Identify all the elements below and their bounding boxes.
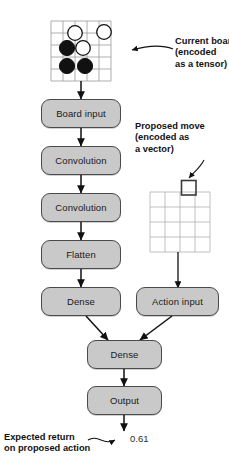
highlighted-move-cell <box>182 181 197 196</box>
stone-black <box>77 58 92 73</box>
node-flatten[interactable]: Flatten <box>41 240 121 269</box>
stone-white <box>97 25 112 40</box>
node-dense-2-label: Dense <box>111 350 139 360</box>
leader-current-board <box>132 46 173 50</box>
expected-return-callout: Expected return on proposed action <box>4 432 90 455</box>
node-board-input[interactable]: Board input <box>41 99 121 128</box>
stone-white <box>68 26 83 41</box>
node-convolution-2[interactable]: Convolution <box>41 193 121 222</box>
node-dense-1[interactable]: Dense <box>41 287 121 316</box>
proposed-move-grid <box>150 181 210 253</box>
node-convolution-1-label: Convolution <box>55 156 106 166</box>
stone-white <box>76 41 91 56</box>
arrow-dense1-to-dense2 <box>86 316 108 340</box>
stone-black <box>59 40 74 55</box>
move-grid-lines <box>150 192 210 252</box>
arrow-action-input-to-dense2 <box>140 316 172 340</box>
node-convolution-1[interactable]: Convolution <box>41 146 121 175</box>
network-architecture-diagram: Board input Convolution Convolution Flat… <box>0 0 229 470</box>
leader-proposed-move <box>189 160 204 178</box>
proposed-move-callout: Proposed move (encoded as a vector) <box>135 121 205 155</box>
current-board-callout: Current board (encoded as a tensor) <box>175 36 229 70</box>
stone-black <box>59 58 74 73</box>
board-stones <box>59 25 111 74</box>
output-value-readout: 0.61 <box>130 433 149 444</box>
node-convolution-2-label: Convolution <box>55 203 106 213</box>
node-output[interactable]: Output <box>87 386 162 415</box>
node-action-input[interactable]: Action input <box>136 287 219 316</box>
node-output-label: Output <box>110 396 139 406</box>
leader-expected-return <box>88 438 115 441</box>
node-flatten-label: Flatten <box>66 250 96 260</box>
node-board-input-label: Board input <box>56 109 106 119</box>
board-grid-lines <box>51 21 111 81</box>
node-dense-1-label: Dense <box>67 297 95 307</box>
node-dense-2[interactable]: Dense <box>87 340 162 369</box>
current-board <box>51 21 111 81</box>
node-action-input-label: Action input <box>152 297 203 307</box>
